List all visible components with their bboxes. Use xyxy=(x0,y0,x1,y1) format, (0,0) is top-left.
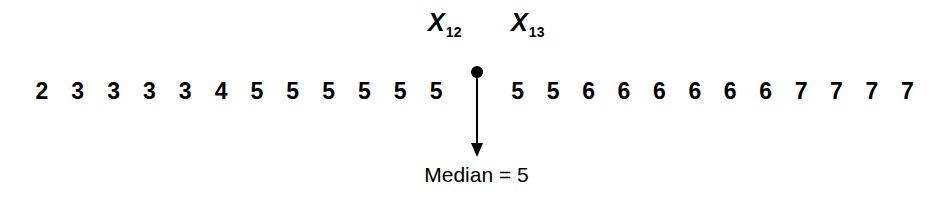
data-value-cell: 6 xyxy=(571,78,606,104)
data-value-cell: 7 xyxy=(783,78,818,104)
data-value-cell: 6 xyxy=(713,78,748,104)
median-caption-text: Median = 5 xyxy=(424,163,529,186)
data-value-cell: 5 xyxy=(346,78,382,104)
x12-subscript: 12 xyxy=(446,24,462,40)
ordered-values-left-group: 233334555555 xyxy=(24,78,454,104)
data-value-cell: 3 xyxy=(131,78,167,104)
x13-label: X13 xyxy=(511,10,544,35)
median-pointer xyxy=(470,66,484,161)
data-value-cell: 7 xyxy=(890,78,925,104)
x13-subscript: 13 xyxy=(529,24,545,40)
data-value-cell: 5 xyxy=(418,78,454,104)
data-value-cell: 7 xyxy=(854,78,889,104)
data-value-cell: 3 xyxy=(167,78,203,104)
data-value-cell: 5 xyxy=(535,78,570,104)
median-arrow-head-icon xyxy=(471,143,483,157)
data-value-cell: 5 xyxy=(500,78,535,104)
data-value-cell: 7 xyxy=(819,78,854,104)
data-value-cell: 2 xyxy=(24,78,60,104)
median-caption: Median = 5 xyxy=(0,163,949,187)
x13-symbol: X xyxy=(511,8,528,36)
data-value-cell: 6 xyxy=(642,78,677,104)
data-value-cell: 5 xyxy=(311,78,347,104)
data-value-cell: 5 xyxy=(275,78,311,104)
median-arrow-shaft xyxy=(476,75,478,145)
data-value-cell: 6 xyxy=(748,78,783,104)
data-value-cell: 3 xyxy=(96,78,132,104)
median-number-line-figure: X12 X13 233334555555 556666667777 Median… xyxy=(0,0,949,205)
data-value-cell: 5 xyxy=(382,78,418,104)
data-value-cell: 5 xyxy=(239,78,275,104)
data-value-cell: 6 xyxy=(606,78,641,104)
x12-label: X12 xyxy=(428,10,461,35)
x12-symbol: X xyxy=(428,8,445,36)
data-value-cell: 3 xyxy=(60,78,96,104)
data-value-cell: 4 xyxy=(203,78,239,104)
ordered-values-right-group: 556666667777 xyxy=(500,78,925,104)
data-value-cell: 6 xyxy=(677,78,712,104)
